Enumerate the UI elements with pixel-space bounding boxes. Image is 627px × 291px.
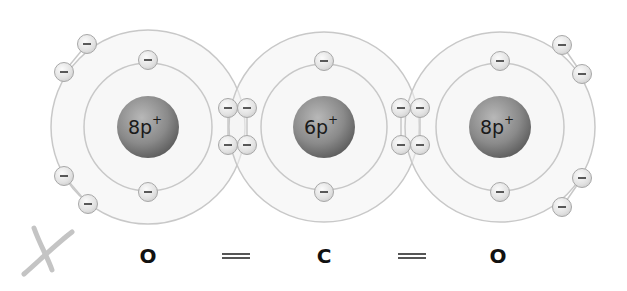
electron-icon: [78, 35, 97, 54]
electron-icon: [55, 63, 74, 82]
shared-electron-icon: [219, 136, 238, 155]
shared-electron-icon: [238, 136, 257, 155]
shared-electron-icon: [392, 136, 411, 155]
shared-electron-icon: [219, 99, 238, 118]
oxygen-right-nucleus: 8p+: [469, 96, 531, 158]
electron-icon: [315, 52, 334, 71]
electron-icon: [139, 183, 158, 202]
formula-atom-carbon: C: [309, 244, 339, 268]
electron-icon: [573, 169, 592, 188]
co2-diagram: 8p+6p+8p+ O C O: [0, 0, 627, 291]
double-bond-left: [222, 253, 250, 259]
formula-atom-oxygen-left: O: [133, 244, 163, 268]
electron-icon: [491, 52, 510, 71]
shared-electron-icon: [411, 136, 430, 155]
electron-icon: [79, 195, 98, 214]
electron-icon: [573, 65, 592, 84]
shared-electron-icon: [411, 99, 430, 118]
carbon-center-nucleus: 6p+: [293, 96, 355, 158]
electron-icon: [139, 51, 158, 70]
handwritten-check-icon: [24, 228, 72, 274]
oxygen-left-nucleus: 8p+: [117, 96, 179, 158]
electron-icon: [491, 183, 510, 202]
electron-icon: [553, 36, 572, 55]
electron-icon: [315, 183, 334, 202]
formula-atom-oxygen-right: O: [483, 244, 513, 268]
shared-electron-icon: [392, 99, 411, 118]
electron-icon: [55, 167, 74, 186]
double-bond-right: [398, 253, 426, 259]
electron-icon: [553, 198, 572, 217]
shared-electron-icon: [238, 99, 257, 118]
